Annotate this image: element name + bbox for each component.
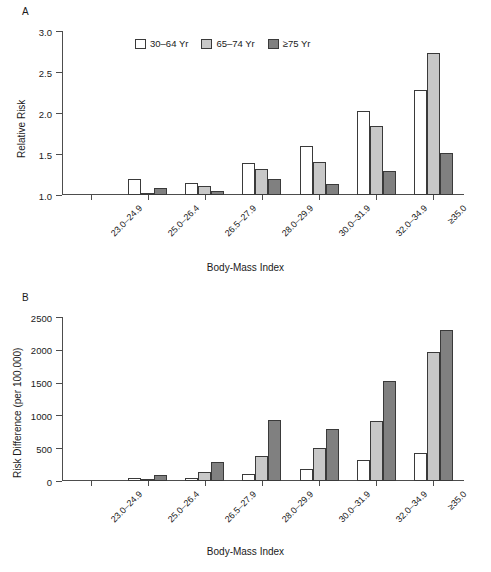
y-tick-label: 0 xyxy=(47,476,52,487)
bar-group xyxy=(291,31,348,195)
bar xyxy=(268,179,281,195)
bar xyxy=(198,472,211,482)
x-category-label: 28.0–29.9 xyxy=(280,489,315,524)
bar xyxy=(141,479,154,481)
y-tick-label: 2500 xyxy=(31,312,52,323)
bar xyxy=(300,146,313,195)
x-category-label: 23.0–24.9 xyxy=(108,203,143,238)
x-category-label: 30.0–31.9 xyxy=(337,203,372,238)
panel-a-x-axis-label: Body-Mass Index xyxy=(0,262,491,273)
bar xyxy=(211,191,224,195)
x-tick xyxy=(433,481,434,486)
x-tick xyxy=(205,481,206,486)
bar xyxy=(255,456,268,481)
x-category-label: 26.5–27.9 xyxy=(223,489,258,524)
x-tick xyxy=(148,195,149,200)
bar xyxy=(427,53,440,195)
bar xyxy=(370,421,383,481)
x-tick xyxy=(319,195,320,200)
y-tick-label: 1500 xyxy=(31,378,52,389)
y-tick-label: 1000 xyxy=(31,410,52,421)
panel-b-plot-area xyxy=(62,317,462,481)
x-tick xyxy=(376,481,377,486)
x-category-label: 32.0–34.9 xyxy=(394,489,429,524)
x-tick xyxy=(376,195,377,200)
x-tick xyxy=(91,481,92,486)
bar xyxy=(128,179,141,195)
x-category-label: 26.5–27.9 xyxy=(223,203,258,238)
bar xyxy=(313,162,326,195)
bar xyxy=(357,460,370,481)
cropped-caption-strip xyxy=(0,566,491,572)
panel-a-y-axis-label: Relative Risk xyxy=(16,100,27,158)
panel-a-legend: 30–64 Yr65–74 Yr≥75 Yr xyxy=(135,38,311,49)
bar xyxy=(357,111,370,195)
panel-b-y-axis-label: Risk Difference (per 100,000) xyxy=(12,348,23,478)
x-category-label: 30.0–31.9 xyxy=(337,489,372,524)
x-category-label: 23.0–24.9 xyxy=(108,489,143,524)
bar xyxy=(198,186,211,195)
x-category-label: ≥35.0 xyxy=(446,203,469,226)
bar-group xyxy=(119,317,176,481)
bar xyxy=(427,352,440,481)
bar-group xyxy=(176,31,233,195)
bar xyxy=(154,188,167,195)
y-tick: 1.0 xyxy=(56,195,62,196)
bar xyxy=(326,184,339,195)
bar xyxy=(185,183,198,195)
bar xyxy=(414,90,427,195)
x-category-label: 32.0–34.9 xyxy=(394,203,429,238)
panel-a: A Relative Risk 1.01.52.02.53.0 23.0–24.… xyxy=(0,0,491,286)
bar xyxy=(141,193,154,195)
y-tick-label: 2.0 xyxy=(39,108,52,119)
y-tick-label: 2000 xyxy=(31,345,52,356)
legend-swatch-light xyxy=(201,39,212,49)
bar xyxy=(326,429,339,481)
bar-group xyxy=(176,317,233,481)
x-category-label: ≥35.0 xyxy=(446,489,469,512)
y-tick-label: 1.0 xyxy=(39,190,52,201)
bar xyxy=(268,420,281,481)
bar xyxy=(154,475,167,481)
bar xyxy=(440,330,453,481)
bar xyxy=(128,478,141,481)
y-tick-label: 1.5 xyxy=(39,149,52,160)
legend-item: 65–74 Yr xyxy=(201,38,254,49)
bar xyxy=(300,469,313,481)
y-tick: 0 xyxy=(56,481,62,482)
x-tick xyxy=(262,481,263,486)
legend-label: ≥75 Yr xyxy=(283,38,311,49)
bar-group xyxy=(233,317,290,481)
panel-b-x-axis-label: Body-Mass Index xyxy=(0,546,491,557)
bar xyxy=(313,448,326,481)
panel-b: B Risk Difference (per 100,000) 05001000… xyxy=(0,286,491,572)
bar xyxy=(211,462,224,481)
y-tick-label: 3.0 xyxy=(39,26,52,37)
x-tick xyxy=(205,195,206,200)
bar-group xyxy=(348,317,405,481)
legend-label: 30–64 Yr xyxy=(150,38,188,49)
y-tick-label: 2.5 xyxy=(39,67,52,78)
panel-b-letter: B xyxy=(22,292,29,303)
figure-root: A Relative Risk 1.01.52.02.53.0 23.0–24.… xyxy=(0,0,491,572)
bar-group xyxy=(405,317,462,481)
legend-item: ≥75 Yr xyxy=(268,38,311,49)
bar-group xyxy=(348,31,405,195)
bar-group xyxy=(233,31,290,195)
bar-group xyxy=(119,31,176,195)
x-category-label: 28.0–29.9 xyxy=(280,203,315,238)
legend-swatch-dark xyxy=(268,39,279,49)
x-category-label: 25.0–26.4 xyxy=(165,489,200,524)
legend-swatch-white xyxy=(135,39,146,49)
x-tick xyxy=(91,195,92,200)
bar xyxy=(383,171,396,195)
panel-a-letter: A xyxy=(22,6,29,17)
bar xyxy=(242,163,255,195)
bar-group xyxy=(62,317,119,481)
panel-a-plot-area xyxy=(62,31,462,195)
x-tick xyxy=(433,195,434,200)
bar xyxy=(255,169,268,195)
x-tick xyxy=(319,481,320,486)
bar xyxy=(440,153,453,195)
bar-group xyxy=(62,31,119,195)
